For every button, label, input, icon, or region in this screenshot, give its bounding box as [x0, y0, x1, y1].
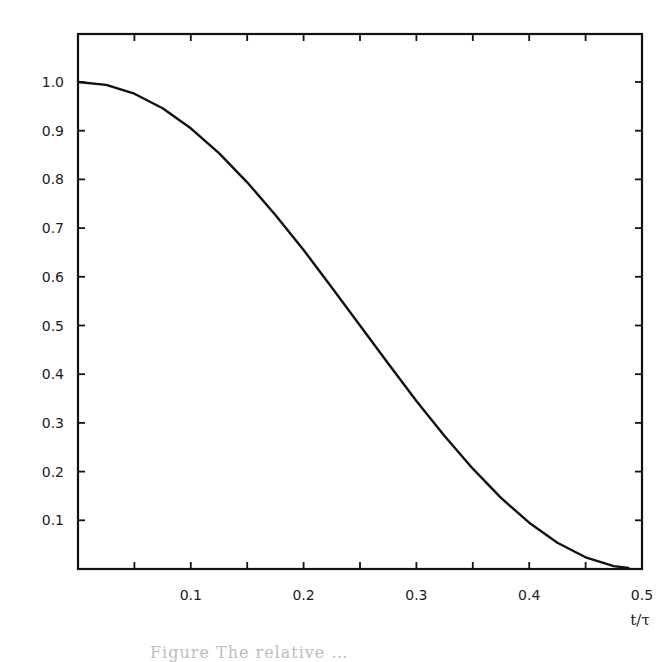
x-axis-ticks — [134, 34, 585, 569]
y-tick-label: 0.4 — [42, 366, 64, 382]
y-axis-tick-labels: 0.10.20.30.40.50.60.70.80.91.0 — [42, 74, 64, 528]
y-tick-label: 0.7 — [42, 220, 64, 236]
y-axis-ticks — [78, 82, 642, 520]
y-tick-label: 0.9 — [42, 123, 64, 139]
x-tick-label: 0.2 — [292, 587, 314, 603]
x-axis-tick-labels: 0.10.20.30.40.5 — [180, 587, 653, 603]
data-line — [78, 82, 629, 568]
y-tick-label: 0.1 — [42, 512, 64, 528]
y-tick-label: 0.5 — [42, 318, 64, 334]
y-tick-label: 0.8 — [42, 171, 64, 187]
x-tick-label: 0.3 — [405, 587, 427, 603]
figure-caption: Figure The relative … — [150, 643, 348, 662]
y-tick-label: 0.6 — [42, 269, 64, 285]
y-tick-label: 0.2 — [42, 464, 64, 480]
x-tick-label: 0.4 — [518, 587, 540, 603]
x-tick-label: 0.1 — [180, 587, 202, 603]
x-axis-label: t/τ — [630, 611, 649, 629]
plot-frame — [78, 34, 642, 569]
y-tick-label: 0.3 — [42, 415, 64, 431]
x-tick-label: 0.5 — [631, 587, 653, 603]
y-tick-label: 1.0 — [42, 74, 64, 90]
